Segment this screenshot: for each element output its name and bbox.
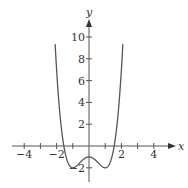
x-tick-label: 4 (150, 148, 157, 161)
y-tick-label: 2 (78, 118, 85, 131)
y-tick-label: 8 (78, 53, 85, 66)
x-tick-label: 2 (118, 148, 125, 161)
y-axis-arrow-icon (86, 19, 92, 27)
y-tick-label: 4 (78, 96, 85, 109)
y-axis-label: y (85, 6, 93, 19)
x-axis-arrow-icon (168, 143, 176, 149)
function-plot: −4−224108642−2 x y (0, 0, 188, 188)
y-tick-label: −2 (69, 162, 85, 175)
x-tick-label: −4 (16, 148, 32, 161)
x-axis-label: x (178, 140, 185, 153)
y-tick-label: 6 (78, 75, 85, 88)
y-tick-label: 10 (71, 31, 85, 44)
x-tick-label: −2 (48, 148, 64, 161)
